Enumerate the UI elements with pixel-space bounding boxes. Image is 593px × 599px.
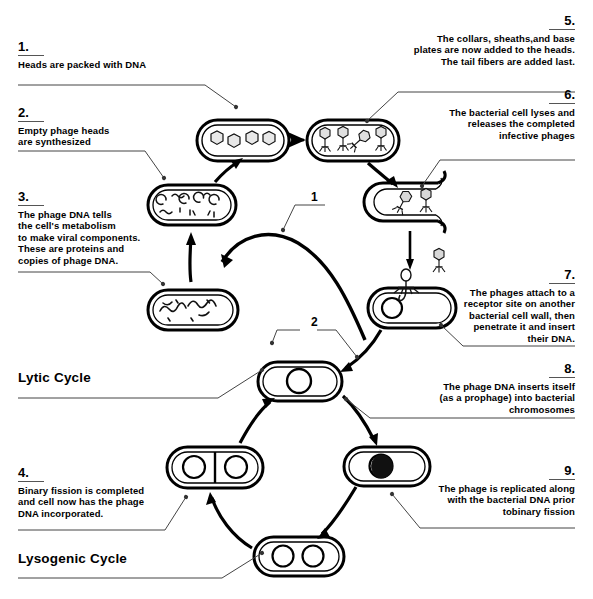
- callout-3-rule: [18, 205, 44, 206]
- arc-lytic-upper: [222, 235, 365, 340]
- callout-7-rule: [549, 283, 575, 284]
- diagram-canvas: 1. Heads are packed with DNA 2. Empty ph…: [0, 0, 593, 599]
- callout-4-text: Binary fission is completed and cell now…: [18, 485, 223, 519]
- callout-9-number: 9.: [345, 464, 575, 477]
- callout-2-number: 2.: [18, 106, 218, 119]
- callout-2: 2. Empty phage heads are synthesized: [18, 106, 218, 148]
- callout-8-number: 8.: [345, 362, 575, 375]
- callout-7-number: 7.: [375, 268, 575, 281]
- callout-9-text: The phage is replicated along with the b…: [345, 483, 575, 517]
- callout-7-text: The phages attach to a receptor site on …: [375, 287, 575, 344]
- callout-5-rule: [549, 29, 575, 30]
- callout-1-text: Heads are packed with DNA: [18, 59, 218, 70]
- callout-8-rule: [549, 377, 575, 378]
- callout-4-number: 4.: [18, 466, 223, 479]
- stage-lysed-cell: [364, 171, 445, 273]
- callout-9-rule: [549, 479, 575, 480]
- callout-6-text: The bacterial cell lyses and releases th…: [325, 107, 575, 141]
- callout-9: 9. The phage is replicated along with th…: [345, 464, 575, 517]
- callout-4: 4. Binary fission is completed and cell …: [18, 466, 223, 519]
- callout-1-number: 1.: [18, 40, 218, 53]
- callout-5: 5. The collars, sheaths,and base plates …: [325, 14, 575, 67]
- callout-2-text: Empty phage heads are synthesized: [18, 125, 218, 148]
- callout-5-text: The collars, sheaths,and base plates are…: [325, 33, 575, 67]
- label-arc-1: 1: [311, 190, 318, 204]
- callout-4-rule: [18, 481, 44, 482]
- callout-6-number: 6.: [325, 88, 575, 101]
- label-arc-2: 2: [311, 315, 318, 329]
- callout-3: 3. The phage DNA tells the cell's metabo…: [18, 190, 223, 266]
- callout-6: 6. The bacterial cell lyses and releases…: [325, 88, 575, 141]
- callout-6-rule: [549, 103, 575, 104]
- arrow-fission-to-host: [240, 402, 270, 443]
- callout-8: 8. The phage DNA inserts itself (as a pr…: [345, 362, 575, 415]
- label-lytic-cycle: Lytic Cycle: [18, 370, 91, 385]
- callout-2-rule: [18, 121, 44, 122]
- callout-1: 1. Heads are packed with DNA: [18, 40, 218, 70]
- stage-host-cell: [258, 362, 342, 401]
- callout-3-number: 3.: [18, 190, 223, 203]
- label-lysogenic-cycle: Lysogenic Cycle: [18, 551, 127, 566]
- callout-8-text: The phage DNA inserts itself (as a proph…: [345, 381, 575, 415]
- stage-phage-dna: [148, 290, 238, 330]
- callout-7: 7. The phages attach to a receptor site …: [375, 268, 575, 344]
- callout-1-rule: [18, 55, 44, 56]
- stage-replicated: [254, 537, 344, 576]
- callout-3-text: The phage DNA tells the cell's metabolis…: [18, 209, 223, 266]
- callout-5-number: 5.: [325, 14, 575, 27]
